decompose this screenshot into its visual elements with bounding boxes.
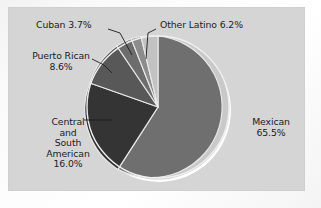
label-central-value: 16.0% xyxy=(30,159,106,170)
label-mexican-name: Mexican xyxy=(234,117,308,128)
label-mexican: Mexican 65.5% xyxy=(234,117,308,138)
label-cuban-text: Cuban 3.7% xyxy=(36,19,91,30)
label-other-latino-text: Other Latino 6.2% xyxy=(160,19,243,30)
label-central-line1: Central xyxy=(30,117,106,128)
label-central-south-american: Central and South American 16.0% xyxy=(30,117,106,170)
chart-panel: Cuban 3.7% Other Latino 6.2% Puerto Rica… xyxy=(8,7,305,191)
label-cuban: Cuban 3.7% xyxy=(36,20,91,31)
label-puerto-rican-value: 8.6% xyxy=(20,62,102,73)
label-puerto-rican-name: Puerto Rican xyxy=(20,51,102,62)
label-mexican-value: 65.5% xyxy=(234,128,308,139)
pie-chart-screenshot: Cuban 3.7% Other Latino 6.2% Puerto Rica… xyxy=(0,0,321,208)
plot-area: Cuban 3.7% Other Latino 6.2% Puerto Rica… xyxy=(8,7,305,191)
label-puerto-rican: Puerto Rican 8.6% xyxy=(20,51,102,72)
label-other-latino: Other Latino 6.2% xyxy=(160,20,243,31)
